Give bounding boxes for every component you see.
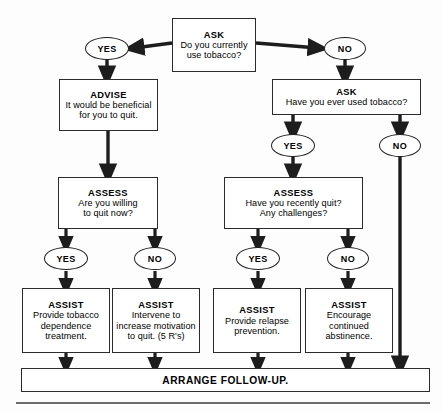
decision-willing-yes[interactable]: YES	[44, 247, 88, 270]
node-arrange-followup[interactable]: ARRANGE FOLLOW-UP.	[21, 368, 430, 392]
node-line-2: for you to quit.	[79, 110, 137, 120]
node-line-2: to quit now?	[83, 208, 133, 218]
node-ask-ever[interactable]: ASK Have you ever used tobacco?	[272, 79, 421, 115]
flowchart-canvas: ASK Do you currently use tobacco? YES NO…	[0, 0, 443, 412]
decision-label: NO	[393, 141, 407, 151]
node-line-1: Do you currently	[180, 40, 247, 50]
node-title: ASSIST	[239, 305, 275, 315]
decision-label: YES	[56, 254, 75, 264]
node-assist-abstinence[interactable]: ASSIST Encourage continued abstinence.	[305, 288, 393, 353]
decision-willing-no[interactable]: NO	[134, 247, 176, 270]
node-line-1: Provide relapse	[225, 316, 289, 326]
decision-recent-yes[interactable]: YES	[236, 247, 280, 270]
node-line-1: Encourage	[327, 310, 371, 320]
node-line-1: Are you willing	[78, 198, 137, 208]
node-line-3: to quit. (5 R's)	[127, 331, 184, 341]
node-title: ADVISE	[90, 90, 127, 100]
node-line-2: continued	[329, 321, 369, 331]
node-title: ASSESS	[88, 188, 128, 198]
node-line-1: Have you ever used tobacco?	[286, 97, 408, 107]
node-assess-willing[interactable]: ASSESS Are you willing to quit now?	[58, 177, 158, 229]
node-line-3: treatment.	[45, 331, 86, 341]
node-line-1: It would be beneficial	[65, 100, 151, 110]
edge-ask-to-yes	[134, 43, 172, 48]
node-line-2: use tobacco?	[187, 50, 242, 60]
node-assess-recent[interactable]: ASSESS Have you recently quit? Any chall…	[224, 177, 363, 229]
node-assist-relapse[interactable]: ASSIST Provide relapse prevention.	[213, 288, 301, 353]
node-title: ASSESS	[274, 188, 314, 198]
decision-top-no[interactable]: NO	[324, 37, 366, 60]
decision-label: YES	[283, 141, 302, 151]
node-line-2: prevention.	[234, 326, 280, 336]
node-assist-motivation[interactable]: ASSIST Intervene to increase motivation …	[112, 288, 200, 353]
node-line-2: Any challenges?	[260, 208, 327, 218]
node-ask-current[interactable]: ASK Do you currently use tobacco?	[172, 18, 256, 72]
decision-recent-no[interactable]: NO	[327, 247, 369, 270]
node-title: ASSIST	[138, 300, 174, 310]
decision-top-yes[interactable]: YES	[85, 37, 129, 60]
bottom-divider	[16, 402, 430, 404]
decision-label: NO	[148, 254, 162, 264]
node-line-2: increase motivation	[116, 321, 195, 331]
decision-label: YES	[97, 44, 116, 54]
decision-ever-no[interactable]: NO	[379, 134, 421, 157]
decision-ever-yes[interactable]: YES	[271, 134, 315, 157]
node-assist-dependence[interactable]: ASSIST Provide tobacco dependence treatm…	[22, 288, 110, 353]
node-line-1: Intervene to	[132, 310, 181, 320]
node-line-1: Have you recently quit?	[245, 198, 341, 208]
node-advise[interactable]: ADVISE It would be beneficial for you to…	[59, 79, 158, 131]
node-title: ASSIST	[331, 300, 367, 310]
decision-label: YES	[248, 254, 267, 264]
node-title: ASK	[336, 87, 357, 97]
node-title: ASK	[204, 30, 225, 40]
node-line-1: Provide tobacco	[33, 310, 99, 320]
edge-ask-to-no	[256, 43, 318, 48]
banner-label: ARRANGE FOLLOW-UP.	[162, 375, 288, 386]
node-line-3: abstinence.	[325, 331, 372, 341]
node-line-2: dependence	[41, 321, 92, 331]
decision-label: NO	[338, 44, 352, 54]
decision-label: NO	[341, 254, 355, 264]
node-title: ASSIST	[48, 300, 84, 310]
